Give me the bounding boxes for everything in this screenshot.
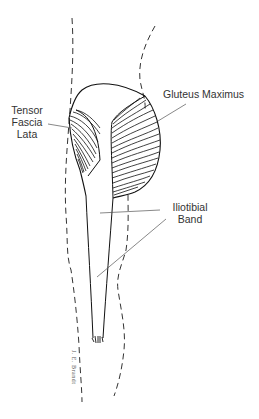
itb-left-edge — [86, 196, 93, 338]
tfl-leader — [48, 124, 72, 128]
itb-leader-2 — [97, 219, 166, 277]
artist-signature: J. E. Brandt — [71, 350, 77, 384]
iliotibial-band — [86, 196, 113, 343]
itb-label-line-2: Band — [165, 213, 215, 225]
tensor-fascia-lata-label: Tensor Fascia Lata — [6, 104, 48, 140]
gluteus-outer-outline — [113, 96, 160, 198]
left-leg-contour — [65, 18, 82, 402]
tfl-label-line-2: Fascia — [6, 116, 48, 128]
tfl-label-line-3: Lata — [6, 128, 48, 140]
itb-leader-1 — [100, 210, 160, 213]
gluteus-maximus-label: Gluteus Maximus — [163, 88, 244, 100]
tensor-fascia-lata-muscle — [70, 110, 100, 176]
muscle-outline — [69, 84, 160, 198]
iliotibial-band-label: Iliotibial Band — [165, 201, 215, 225]
itb-insertion — [92, 336, 103, 343]
tfl-outer-outline — [69, 118, 86, 196]
body-contour — [65, 18, 155, 402]
gluteus-maximus-muscle — [111, 96, 160, 198]
itb-label-line-1: Iliotibial — [165, 201, 215, 213]
tfl-label-line-1: Tensor — [6, 104, 48, 116]
anatomy-illustration — [0, 0, 259, 419]
gm-leader — [158, 104, 186, 121]
